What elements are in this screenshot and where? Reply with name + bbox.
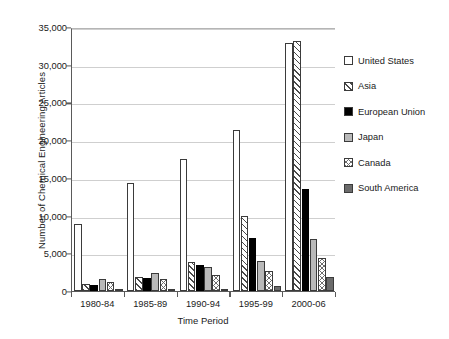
legend-label: European Union xyxy=(358,107,425,117)
bar[interactable] xyxy=(143,278,151,291)
legend: United StatesAsiaEuropean UnionJapanCana… xyxy=(344,48,449,201)
legend-item[interactable]: Canada xyxy=(344,150,449,176)
legend-item[interactable]: South America xyxy=(344,176,449,202)
bar[interactable] xyxy=(212,275,220,291)
legend-swatch-icon xyxy=(344,107,353,116)
bar[interactable] xyxy=(204,267,212,292)
bar[interactable] xyxy=(233,130,241,291)
y-axis-title: Number of Chemical Engineering Articles xyxy=(36,36,47,286)
legend-label: Japan xyxy=(358,132,383,142)
legend-label: United States xyxy=(358,56,414,66)
x-tick-mark xyxy=(282,292,283,297)
legend-label: South America xyxy=(358,183,418,193)
bar[interactable] xyxy=(302,189,310,291)
bar[interactable] xyxy=(326,277,334,291)
bar-chart-figure: Number of Chemical Engineering Articles … xyxy=(0,0,449,339)
bar[interactable] xyxy=(168,289,176,291)
legend-item[interactable]: United States xyxy=(344,48,449,74)
bar[interactable] xyxy=(265,271,273,291)
bar[interactable] xyxy=(82,284,90,291)
bar[interactable] xyxy=(90,285,98,291)
legend-label: Asia xyxy=(358,81,376,91)
bar-group xyxy=(180,29,229,291)
plot-area xyxy=(71,28,335,292)
bar[interactable] xyxy=(249,238,257,291)
bar[interactable] xyxy=(188,262,196,291)
legend-swatch-icon xyxy=(344,133,353,142)
bar-group xyxy=(285,29,334,291)
bar[interactable] xyxy=(241,216,249,291)
bar[interactable] xyxy=(274,286,282,291)
bar[interactable] xyxy=(310,239,318,291)
y-tick-label: 25,000 xyxy=(7,98,67,108)
y-tick-label: 30,000 xyxy=(7,61,67,71)
legend-swatch-icon xyxy=(344,56,353,65)
bar[interactable] xyxy=(99,279,107,291)
bar-group xyxy=(127,29,176,291)
bar-group xyxy=(74,29,123,291)
bar[interactable] xyxy=(74,224,82,291)
x-axis-title: Time Period xyxy=(71,315,335,326)
bar[interactable] xyxy=(180,159,188,291)
x-tick-mark xyxy=(177,292,178,297)
y-tick-label: 15,000 xyxy=(7,174,67,184)
bar[interactable] xyxy=(221,289,229,291)
legend-swatch-icon xyxy=(344,158,353,167)
bar[interactable] xyxy=(318,258,326,291)
x-tick-mark xyxy=(229,292,230,297)
legend-item[interactable]: Japan xyxy=(344,125,449,151)
bar[interactable] xyxy=(115,289,123,291)
y-tick-label: 10,000 xyxy=(7,212,67,222)
x-tick-label: 2000-06 xyxy=(274,299,344,309)
bar[interactable] xyxy=(257,261,265,291)
x-tick-mark xyxy=(71,292,72,297)
bar[interactable] xyxy=(285,43,293,291)
y-tick-label: 5,000 xyxy=(7,249,67,259)
x-tick-mark xyxy=(124,292,125,297)
legend-item[interactable]: European Union xyxy=(344,99,449,125)
y-tick-label: 0 xyxy=(7,287,67,297)
bar[interactable] xyxy=(127,183,135,291)
bar[interactable] xyxy=(293,41,301,291)
x-tick-mark xyxy=(335,292,336,297)
legend-item[interactable]: Asia xyxy=(344,74,449,100)
bar-groups xyxy=(72,29,335,291)
legend-label: Canada xyxy=(358,158,391,168)
bar[interactable] xyxy=(196,265,204,291)
y-tick-label: 35,000 xyxy=(7,23,67,33)
bar[interactable] xyxy=(151,273,159,291)
bar[interactable] xyxy=(160,279,168,291)
legend-swatch-icon xyxy=(344,82,353,91)
bar[interactable] xyxy=(135,277,143,291)
legend-swatch-icon xyxy=(344,184,353,193)
y-tick-label: 20,000 xyxy=(7,136,67,146)
bar-group xyxy=(233,29,282,291)
bar[interactable] xyxy=(107,282,115,291)
